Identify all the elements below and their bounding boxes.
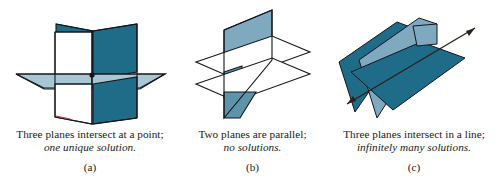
caption-b-line1: Two planes are parallel; xyxy=(180,128,325,141)
caption-a: Three planes intersect at a point; one u… xyxy=(0,128,180,153)
caption-c: Three planes intersect in a line; infini… xyxy=(325,128,503,153)
diagram-two-parallel-planes xyxy=(180,0,325,128)
panel-label-c: (c) xyxy=(408,161,420,173)
caption-c-line2: infinitely many solutions. xyxy=(325,141,503,154)
caption-b-line2: no solutions. xyxy=(180,141,325,154)
intersection-point xyxy=(89,72,94,77)
diagram-three-planes-point xyxy=(0,0,180,128)
plane-upper-sliver xyxy=(413,24,437,46)
caption-c-line1: Three planes intersect in a line; xyxy=(325,128,503,141)
line-arrow-head xyxy=(466,28,475,36)
caption-a-line2: one unique solution. xyxy=(0,141,180,154)
plane-quadrant-upper-left-white xyxy=(55,32,92,79)
plane-vertical-lower xyxy=(224,92,256,118)
diagram-three-planes-line xyxy=(325,0,503,128)
caption-b: Two planes are parallel; no solutions. xyxy=(180,128,325,153)
caption-a-line1: Three planes intersect at a point; xyxy=(0,128,180,141)
panel-label-b: (b) xyxy=(246,161,259,173)
panel-label-a: (a) xyxy=(84,161,96,173)
plane-vertical-right-upper xyxy=(93,24,137,79)
panel-b: Two planes are parallel; no solutions. (… xyxy=(180,0,325,189)
plane-vertical-right-lower xyxy=(93,77,137,124)
panel-a: Three planes intersect at a point; one u… xyxy=(0,0,180,189)
planes-intersection-figure: Three planes intersect at a point; one u… xyxy=(0,0,503,189)
panel-c: Three planes intersect in a line; infini… xyxy=(325,0,503,189)
